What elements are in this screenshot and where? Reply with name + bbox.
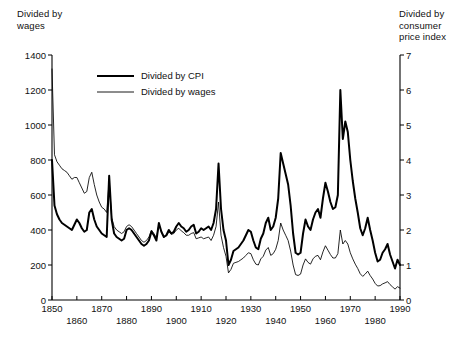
right-tick-label-1: 1	[406, 260, 411, 271]
x-tick-label-1940: 1940	[265, 315, 286, 326]
left-axis-ticks	[48, 55, 52, 300]
series-line-divided-by-wages	[52, 69, 400, 289]
left-tick-label-200: 200	[30, 260, 46, 271]
left-tick-label-400: 400	[30, 225, 46, 236]
x-tick-label-1930: 1930	[240, 303, 261, 314]
x-tick-label-1970: 1970	[340, 303, 361, 314]
plot-area	[0, 0, 459, 345]
series-line-divided-by-cpi	[52, 90, 400, 269]
right-tick-label-7: 7	[406, 50, 411, 61]
x-tick-label-1870: 1870	[91, 303, 112, 314]
legend-marks	[97, 76, 134, 92]
left-tick-label-600: 600	[30, 190, 46, 201]
right-axis-ticks	[400, 55, 404, 300]
left-tick-label-1400: 1400	[25, 50, 46, 61]
right-tick-label-2: 2	[406, 225, 411, 236]
left-tick-label-800: 800	[30, 155, 46, 166]
x-tick-label-1920: 1920	[215, 315, 236, 326]
right-tick-label-5: 5	[406, 120, 411, 131]
left-tick-label-1200: 1200	[25, 85, 46, 96]
x-axis-ticks	[52, 296, 400, 300]
x-tick-label-1850: 1850	[41, 303, 62, 314]
x-tick-label-1890: 1890	[141, 303, 162, 314]
x-tick-label-1880: 1880	[116, 315, 137, 326]
x-tick-label-1960: 1960	[315, 315, 336, 326]
right-tick-label-3: 3	[406, 190, 411, 201]
left-tick-label-1000: 1000	[25, 120, 46, 131]
right-tick-label-4: 4	[406, 155, 411, 166]
legend-label-divided-by-wages: Divided by wages	[141, 86, 215, 97]
right-tick-label-6: 6	[406, 85, 411, 96]
x-tick-label-1900: 1900	[166, 315, 187, 326]
legend-label-divided-by-cpi: Divided by CPI	[141, 70, 204, 81]
x-tick-label-1910: 1910	[191, 303, 212, 314]
x-tick-label-1950: 1950	[290, 303, 311, 314]
chart-container: Divided by wages Divided by consumer pri…	[0, 0, 459, 345]
x-tick-label-1990: 1990	[389, 303, 410, 314]
x-tick-label-1860: 1860	[66, 315, 87, 326]
x-tick-label-1980: 1980	[365, 315, 386, 326]
